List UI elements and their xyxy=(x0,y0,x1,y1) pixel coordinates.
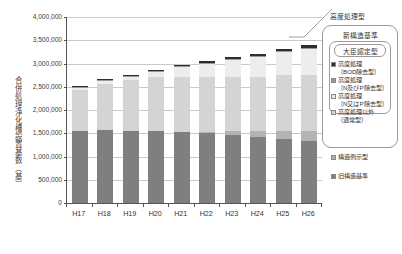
bar-segment-adv_np xyxy=(123,76,139,77)
bar-segment-adv_np xyxy=(97,80,113,81)
bar-segment-adv_nop xyxy=(250,57,266,77)
bar-H18 xyxy=(97,17,113,203)
y-tick-label: 1,000,000 xyxy=(2,153,62,160)
bar-segment-normal xyxy=(97,84,113,130)
bar-segment-adv_np xyxy=(250,56,266,57)
y-tick-label: 2,000,000 xyxy=(2,106,62,113)
bar-segment-adv_bod xyxy=(225,57,241,59)
legend-entry-sublabel: （N及びP除去型） xyxy=(337,84,388,92)
bar-H21 xyxy=(174,17,190,203)
bar-segment-normal xyxy=(123,80,139,130)
bar-segment-adv_nop xyxy=(72,87,88,90)
bar-segment-normal xyxy=(174,77,190,132)
x-tick-mark xyxy=(66,204,67,207)
bar-segment-adv_nop xyxy=(199,64,215,77)
y-tick-mark xyxy=(64,64,67,65)
bar-segment-adv_np xyxy=(174,66,190,67)
bar-segment-adv_bod xyxy=(301,45,317,47)
legend-entry-sublabel: （N又はP除去型） xyxy=(337,100,388,108)
y-tick-label: 3,000,000 xyxy=(2,60,62,67)
legend-swatch-icon xyxy=(331,155,336,160)
bar-segment-struct xyxy=(199,132,215,134)
bar-segment-normal xyxy=(148,77,164,131)
legend-swatch-icon xyxy=(331,78,336,83)
bar-segment-old xyxy=(276,139,292,203)
legend-entry-label: 構造例示型 xyxy=(338,153,368,160)
bar-segment-old xyxy=(148,131,164,203)
bar-segment-old xyxy=(97,130,113,203)
legend-entry-label: 高度処理 xyxy=(338,76,362,83)
legend-title-advanced: 高度処理型 xyxy=(330,11,396,21)
x-tick-mark xyxy=(194,204,195,207)
bar-H20 xyxy=(148,17,164,203)
bar-segment-struct xyxy=(250,131,266,137)
bar-segment-adv_bod xyxy=(250,54,266,56)
legend-swatch-icon xyxy=(331,62,336,67)
bar-segment-struct xyxy=(301,131,317,141)
x-tick-mark xyxy=(219,204,220,207)
legend-entry-0: 高度処理（BOD除去型） xyxy=(331,60,380,68)
bar-segment-adv_bod xyxy=(199,61,215,63)
bar-segment-old xyxy=(72,131,88,203)
legend-entry-2: 高度処理（N又はP除去型） xyxy=(331,92,388,100)
bar-H23 xyxy=(225,17,241,203)
bar-segment-adv_bod xyxy=(174,65,190,66)
legend-title-new-standard: 新構造基準 xyxy=(329,30,391,40)
legend-entry-label: 高度処理 xyxy=(338,92,362,99)
bar-segment-old xyxy=(199,133,215,203)
bar-segment-adv_np xyxy=(199,63,215,64)
x-tick-mark xyxy=(296,204,297,207)
bar-H24 xyxy=(250,17,266,203)
legend-entry-label: 高度処理 xyxy=(338,60,362,67)
y-tick-mark xyxy=(64,40,67,41)
x-tick-mark xyxy=(270,204,271,207)
y-tick-mark xyxy=(64,157,67,158)
bar-segment-old xyxy=(123,131,139,203)
legend-title-minister: 大臣認定型 xyxy=(334,46,386,56)
legend-entry-1: 高度処理（N及びP除去型） xyxy=(331,76,388,84)
y-tick-label: 1,500,000 xyxy=(2,129,62,136)
bar-segment-adv_np xyxy=(148,71,164,72)
legend-entry-sublabel: （BOD除去型） xyxy=(337,68,380,76)
bar-segment-old xyxy=(225,135,241,203)
x-tick-mark xyxy=(245,204,246,207)
bar-segment-normal xyxy=(199,77,215,132)
bar-segment-adv_nop xyxy=(174,67,190,77)
bar-segment-adv_nop xyxy=(97,81,113,84)
bar-segment-adv_nop xyxy=(276,52,292,75)
bar-segment-adv_nop xyxy=(123,77,139,81)
bar-segment-normal xyxy=(276,75,292,131)
stacked-bar-chart: 合併処理浄化槽設置基数（基） 0500,0001,000,0001,500,00… xyxy=(0,0,402,254)
y-tick-mark xyxy=(64,87,67,88)
bar-segment-normal xyxy=(250,77,266,132)
bar-H22 xyxy=(199,17,215,203)
bar-segment-adv_bod xyxy=(276,49,292,51)
bar-H17 xyxy=(72,17,88,203)
legend-entry-label: 高度処理以外 xyxy=(338,108,374,115)
bar-H26 xyxy=(301,17,317,203)
bar-segment-old xyxy=(174,132,190,203)
bar-segment-adv_np xyxy=(276,51,292,52)
x-tick-label-H26: H26 xyxy=(288,209,328,218)
plot-area xyxy=(66,17,322,204)
y-tick-label: 2,500,000 xyxy=(2,83,62,90)
bar-segment-struct xyxy=(276,131,292,139)
bar-segment-adv_np xyxy=(301,48,317,49)
y-tick-label: 0 xyxy=(2,199,62,206)
legend-entry-struct: 構造例示型 xyxy=(331,153,368,161)
bar-segment-adv_nop xyxy=(301,49,317,75)
x-tick-mark xyxy=(168,204,169,207)
bar-segment-adv_bod xyxy=(148,70,164,71)
x-tick-mark xyxy=(143,204,144,207)
bar-segment-old xyxy=(250,137,266,203)
x-tick-mark xyxy=(321,204,322,207)
bar-segment-normal xyxy=(72,90,88,131)
y-tick-mark xyxy=(64,17,67,18)
y-tick-label: 4,000,000 xyxy=(2,13,62,20)
bar-segment-adv_bod xyxy=(72,86,88,87)
bar-segment-adv_bod xyxy=(123,75,139,76)
bar-H25 xyxy=(276,17,292,203)
y-tick-mark xyxy=(64,133,67,134)
bar-segment-normal xyxy=(301,75,317,131)
legend-entry-label: 旧構造基準 xyxy=(338,172,368,179)
